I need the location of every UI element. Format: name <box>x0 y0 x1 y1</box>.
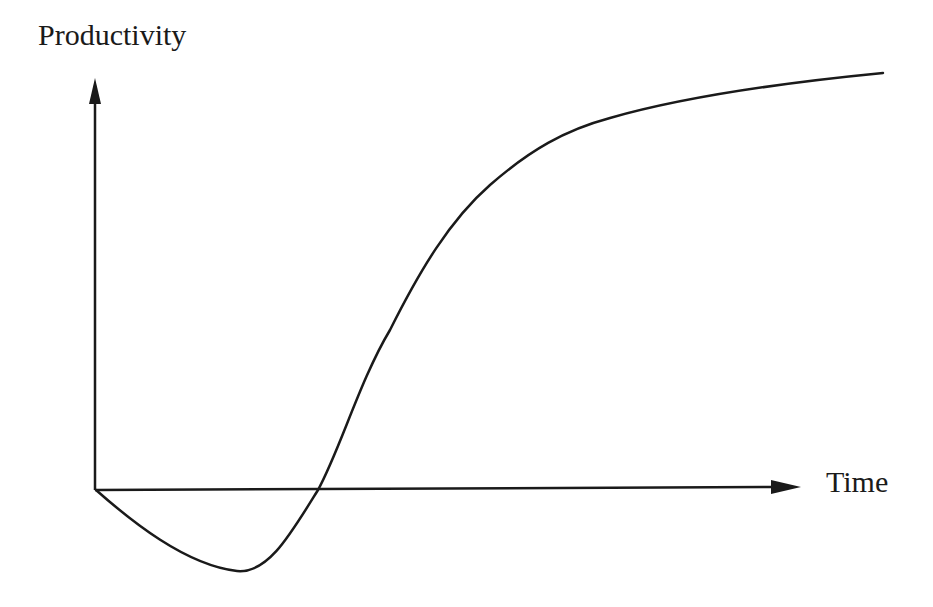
x-axis-arrowhead-icon <box>771 480 801 494</box>
y-axis-arrowhead-icon <box>89 78 101 104</box>
x-axis-line <box>95 487 775 490</box>
x-axis-label: Time <box>826 467 888 497</box>
productivity-j-curve-diagram <box>0 0 933 607</box>
y-axis-label: Productivity <box>38 20 186 50</box>
productivity-curve <box>96 73 883 571</box>
